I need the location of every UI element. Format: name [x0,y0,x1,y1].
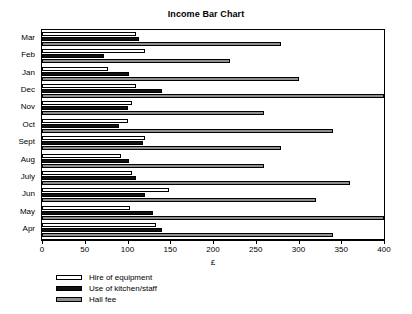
bar [42,42,281,46]
bar [42,106,128,110]
bar-group [42,136,384,150]
bar [42,84,136,88]
x-axis-tick-label: 200 [206,246,219,254]
bar-group [42,171,384,185]
x-axis-tick [384,240,385,244]
y-axis-label-nov: Nov [21,103,35,111]
bar [42,136,145,140]
bar [42,171,132,175]
y-axis-label-apr: Apr [23,225,35,233]
bar [42,59,230,63]
x-axis-tick [170,240,171,244]
bar [42,94,384,98]
bar [42,206,130,210]
x-axis-tick-label: 350 [335,246,348,254]
chart-legend: Hire of equipmentUse of kitchen/staffHal… [56,272,157,305]
bar [42,129,333,133]
bar [42,216,384,220]
bar-group [42,223,384,237]
legend-label: Use of kitchen/staff [89,284,157,293]
bar [42,181,350,185]
x-axis-tick [341,240,342,244]
bar-group [42,154,384,168]
x-axis-title: £ [41,258,385,267]
bar [42,223,156,227]
bar [42,49,145,53]
bars-layer [42,30,384,239]
x-axis-tick [128,240,129,244]
x-axis-tick [42,240,43,244]
legend-swatch-kitchen [56,286,82,291]
legend-swatch-hall [56,297,82,302]
bar [42,176,136,180]
bar [42,37,139,41]
bar-group [42,67,384,81]
bar-group [42,84,384,98]
bar [42,233,333,237]
bar [42,159,129,163]
y-axis-label-jan: Jan [22,69,35,77]
bar [42,188,169,192]
bar [42,228,162,232]
y-axis-label-jun: Jun [22,190,35,198]
legend-label: Hall fee [89,295,116,304]
y-axis-label-oct: Oct [23,121,35,129]
x-axis-tick-label: 0 [40,246,44,254]
legend-item: Hire of equipment [56,272,157,282]
bar-group [42,101,384,115]
y-axis-label-july: July [21,173,35,181]
legend-swatch-hire [56,275,82,280]
x-axis-tick-label: 50 [80,246,89,254]
x-axis-tick-label: 100 [121,246,134,254]
bar-group [42,119,384,133]
plot-area [41,29,385,240]
x-axis-tick-label: 150 [164,246,177,254]
y-axis-month-labels: MarFebJanDecNovOctSeptAugJulyJunMayApr [0,29,38,240]
bar [42,72,129,76]
x-axis-tick [256,240,257,244]
bar-group [42,32,384,46]
y-axis-label-dec: Dec [21,86,35,94]
bar [42,111,264,115]
bar [42,164,264,168]
bar [42,67,108,71]
y-axis-label-aug: Aug [21,156,35,164]
bar [42,141,143,145]
chart-title: Income Bar Chart [0,9,412,19]
x-axis-tick-label: 300 [292,246,305,254]
bar [42,89,162,93]
income-bar-chart: Income Bar Chart MarFebJanDecNovOctSeptA… [0,0,412,314]
bar [42,101,132,105]
bar [42,146,281,150]
y-axis-label-sept: Sept [19,138,35,146]
y-axis-label-mar: Mar [21,34,35,42]
x-axis-tick [213,240,214,244]
bar-group [42,188,384,202]
bar [42,32,136,36]
bar [42,211,153,215]
legend-item: Hall fee [56,294,157,304]
x-axis: 050100150200250300350400 [41,240,385,241]
x-axis-tick [85,240,86,244]
bar [42,198,316,202]
x-axis-tick-label: 400 [377,246,390,254]
bar [42,119,128,123]
legend-label: Hire of equipment [89,273,152,282]
bar [42,54,104,58]
bar [42,193,145,197]
x-axis-tick-label: 250 [249,246,262,254]
bar-group [42,206,384,220]
x-axis-tick [299,240,300,244]
bar-group [42,49,384,63]
bar [42,124,119,128]
y-axis-label-may: May [20,208,35,216]
bar [42,77,299,81]
legend-item: Use of kitchen/staff [56,283,157,293]
bar [42,154,121,158]
y-axis-label-feb: Feb [21,51,35,59]
